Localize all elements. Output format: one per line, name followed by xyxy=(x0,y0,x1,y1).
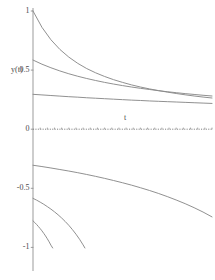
curve-c6 xyxy=(33,221,53,248)
plot-figure: 1 0.5 0 -0.5 -1 y(t) t xyxy=(0,0,215,280)
y-tick-label-minus0_5: -0.5 xyxy=(0,184,30,192)
curve-c3 xyxy=(33,94,212,103)
curve-c5 xyxy=(33,198,85,248)
y-axis-label: y(t) xyxy=(11,66,23,74)
curve-c4 xyxy=(33,165,212,217)
y-tick-label-0: 0 xyxy=(0,125,30,133)
y-tick-label-minus1: -1 xyxy=(0,243,30,251)
curve-c2 xyxy=(33,60,212,96)
x-axis-label: t xyxy=(124,114,126,122)
curve-c1 xyxy=(33,11,212,98)
plot-canvas xyxy=(0,0,215,280)
x-axis-ticks xyxy=(40,128,212,130)
y-tick-label-1: 1 xyxy=(0,7,30,15)
